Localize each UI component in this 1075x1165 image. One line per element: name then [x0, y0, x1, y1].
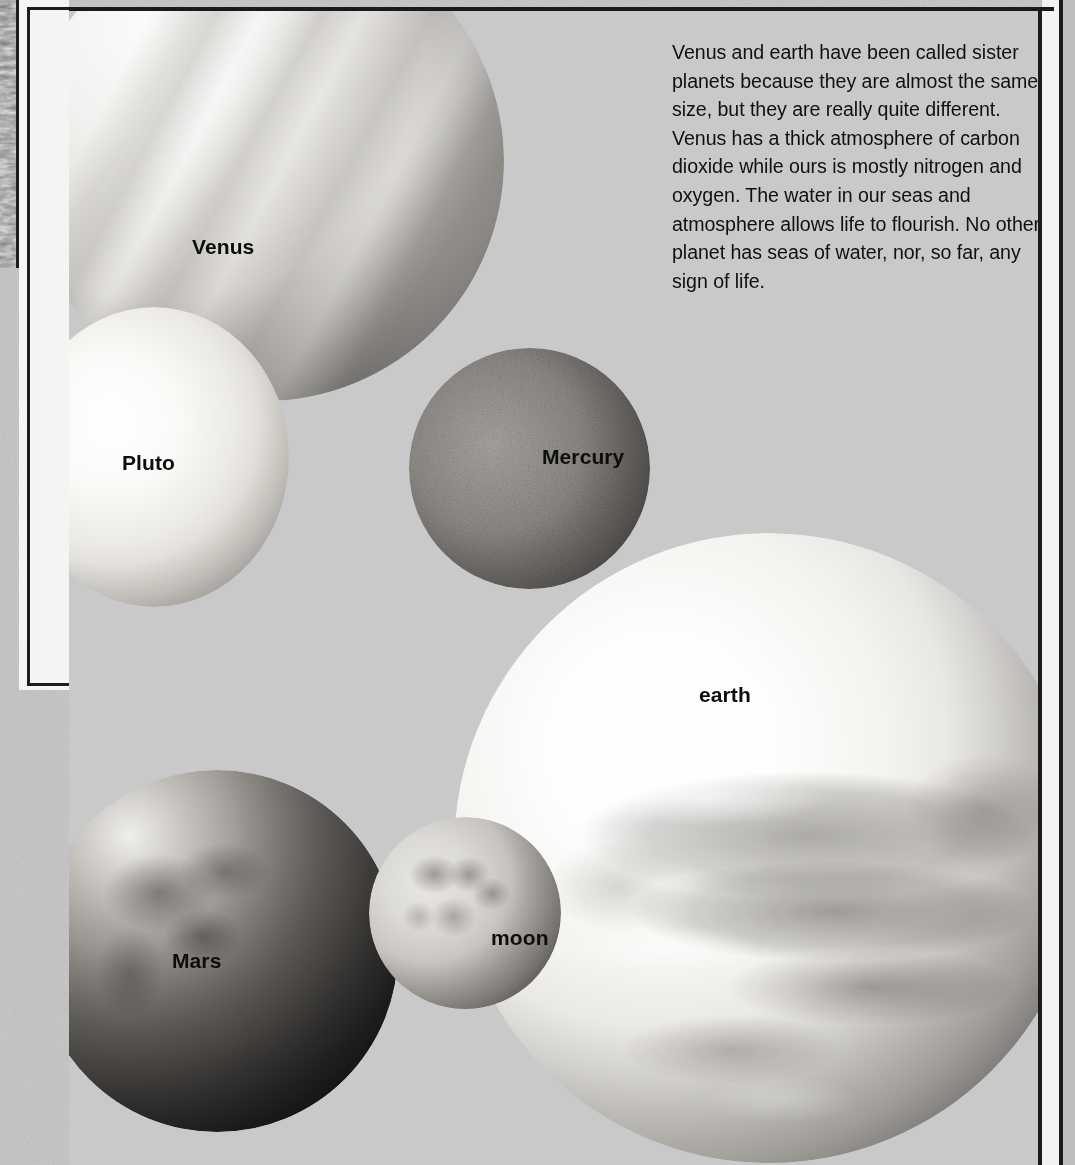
label-pluto: Pluto	[122, 451, 175, 475]
illustration-plate: Venus Pluto Mercury earth Mars moon Venu…	[69, 11, 1038, 1165]
label-mars: Mars	[172, 949, 221, 973]
inset-photo-texture	[0, 0, 16, 268]
label-moon: moon	[491, 926, 549, 950]
planet-mars	[69, 770, 398, 1132]
page-rule-inner-right	[1038, 7, 1042, 1165]
page-rule-top	[21, 7, 1054, 11]
page-edge-right	[1063, 0, 1075, 1165]
inset-card-rule-top	[27, 7, 69, 10]
caption-block: Venus and earth have been called sister …	[672, 38, 1038, 295]
inset-card-rule-left	[27, 7, 30, 683]
inset-photo-rule	[16, 0, 19, 268]
inset-card-rule-bottom	[27, 683, 69, 686]
planet-moon	[369, 817, 561, 1009]
planet-earth	[454, 533, 1038, 1163]
page-rule-outer-right	[1059, 0, 1063, 1165]
label-mercury: Mercury	[542, 445, 624, 469]
caption-text: Venus and earth have been called sister …	[672, 38, 1038, 295]
inset-photo-sliver	[0, 0, 16, 268]
planets-illustration-page: Venus Pluto Mercury earth Mars moon Venu…	[0, 0, 1075, 1165]
label-venus: Venus	[192, 235, 254, 259]
label-earth: earth	[699, 683, 751, 707]
moon-terminator	[369, 817, 561, 1009]
earth-terminator	[454, 533, 1038, 1163]
mars-terminator	[69, 770, 398, 1132]
page-gutter	[1042, 0, 1059, 1165]
